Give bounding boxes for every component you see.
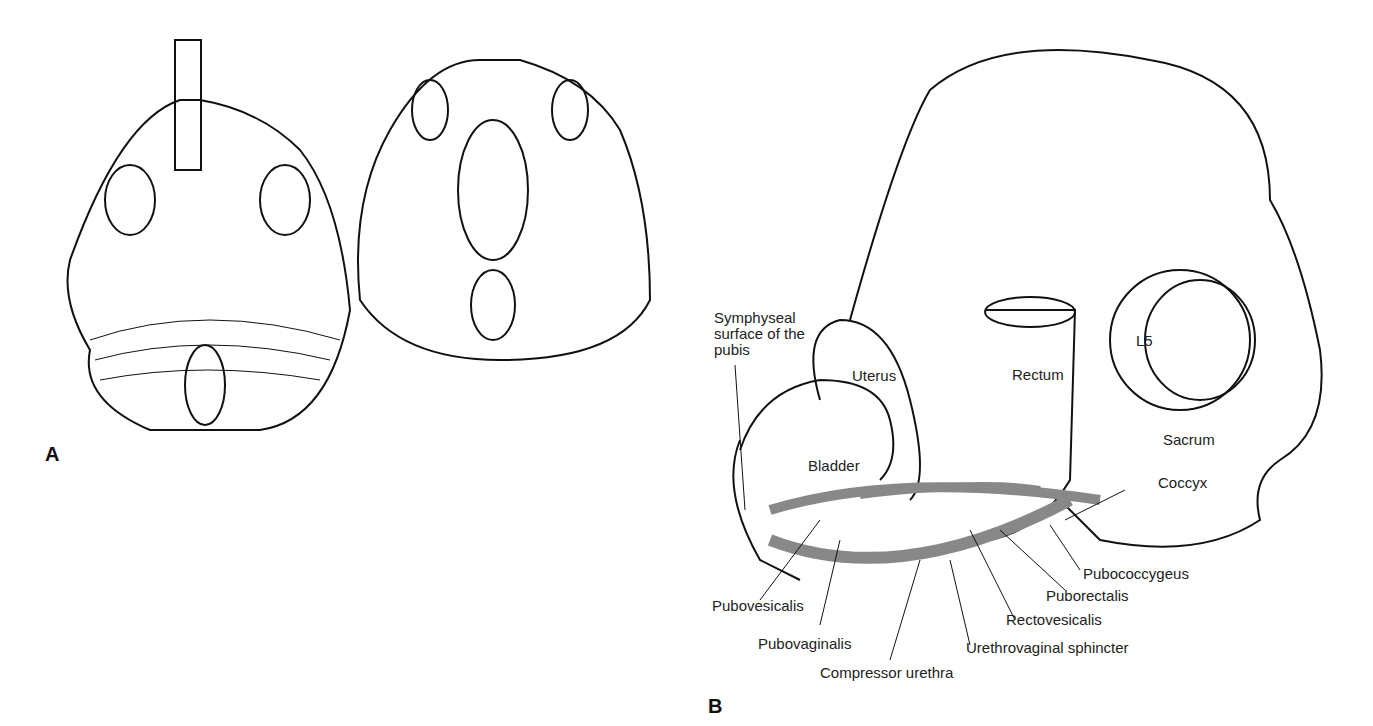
- label-rectum: Rectum: [1012, 367, 1064, 383]
- label-uterus: Uterus: [852, 368, 896, 384]
- label-urethrovaginal-sphincter: Urethrovaginal sphincter: [966, 640, 1129, 656]
- label-bladder: Bladder: [808, 458, 860, 474]
- label-pubovesicalis: Pubovesicalis: [712, 598, 804, 614]
- label-sacrum: Sacrum: [1163, 432, 1215, 448]
- label-rectovesicalis: Rectovesicalis: [1006, 612, 1102, 628]
- label-pubococcygeus: Pubococcygeus: [1083, 566, 1189, 582]
- label-puborectalis: Puborectalis: [1046, 588, 1129, 604]
- label-l5: L5: [1136, 333, 1153, 349]
- label-compressor-urethra: Compressor urethra: [820, 665, 953, 681]
- pelvic-floor-right: [358, 60, 650, 360]
- label-symphyseal-surface: Symphyseal surface of the pubis: [714, 310, 805, 358]
- label-pubovaginalis: Pubovaginalis: [758, 636, 851, 652]
- panel-label-b: B: [708, 695, 722, 718]
- pelvic-floor-left: [68, 40, 351, 430]
- pelvis-lateral: [733, 50, 1321, 580]
- label-coccyx: Coccyx: [1158, 475, 1207, 491]
- panel-label-a: A: [45, 443, 59, 466]
- illustration: [0, 0, 1373, 726]
